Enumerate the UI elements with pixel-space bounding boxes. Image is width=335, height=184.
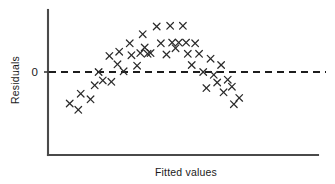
data-point-marker [108,79,115,86]
data-point-marker [91,82,98,89]
plot-axes [44,10,318,155]
data-point-marker [183,39,190,46]
data-point-marker [106,53,113,60]
y-axis-tick-label-zero: 0 [32,66,38,78]
data-point-marker [210,72,217,79]
data-point-marker [75,107,82,114]
data-point-marker [192,40,199,47]
data-point-marker [218,62,225,69]
data-point-marker [126,40,133,47]
data-point-marker [236,95,243,102]
data-point-marker [224,76,231,83]
data-point-marker [116,48,123,55]
data-point-marker [128,52,135,59]
data-point-marker [158,40,165,47]
data-point-marker [180,23,187,30]
data-point-marker [139,31,146,38]
data-point-marker [184,51,191,58]
y-axis-title: Residuals [9,56,21,104]
data-point-marker [220,89,227,96]
data-point-marker [99,77,106,84]
data-point-marker [188,62,195,69]
data-point-marker [134,62,141,69]
data-point-marker [207,55,214,62]
data-point-marker [196,51,203,58]
data-point-marker [231,101,238,108]
residual-plot: 0 Fitted values Residuals [0,0,335,184]
data-point-marker [77,90,84,97]
data-point-marker [163,51,170,58]
data-point-marker [137,50,144,57]
data-point-marker [87,96,94,103]
data-point-marker [167,23,174,30]
data-point-marker [66,100,73,107]
data-point-markers [66,23,242,114]
data-point-marker [214,79,221,86]
data-point-marker [203,85,210,92]
data-point-marker [229,83,236,90]
data-point-marker [114,61,121,68]
x-axis-title: Fitted values [155,166,217,178]
data-point-marker [153,23,160,30]
residual-plot-canvas: 0 Fitted values Residuals [0,0,335,184]
